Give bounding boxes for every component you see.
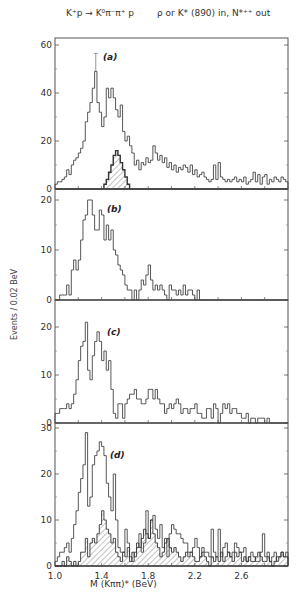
x-tick-label: 1.4 — [94, 571, 109, 581]
y-tick-label: 20 — [41, 136, 53, 146]
panel-a: 0204060(a) — [41, 38, 288, 194]
hatched-histogram — [55, 511, 288, 566]
x-tick-label: 1.8 — [141, 571, 156, 581]
panel-frame — [55, 189, 288, 300]
y-tick-label: 0 — [46, 184, 52, 194]
y-tick-label: 10 — [41, 370, 53, 380]
y-tick-label: 20 — [41, 469, 53, 479]
y-tick-label: 0 — [46, 561, 52, 571]
panel-label: (d) — [110, 450, 125, 460]
y-tick-label: 20 — [41, 195, 53, 205]
y-tick-label: 20 — [41, 322, 53, 332]
histogram — [55, 71, 288, 189]
y-tick-label: 30 — [41, 423, 53, 433]
histogram — [55, 200, 288, 300]
y-tick-label: 60 — [41, 40, 53, 50]
panel-d: 0102030(d) — [41, 423, 288, 571]
histogram — [55, 322, 288, 423]
y-tick-label: 0 — [46, 295, 52, 305]
panel-label: (b) — [107, 204, 122, 214]
x-tick-label: 1.0 — [48, 571, 63, 581]
panel-c: 01020(c) — [41, 300, 288, 428]
y-tick-label: 40 — [41, 88, 53, 98]
panel-label: (a) — [103, 52, 117, 62]
x-tick-label: 2.2 — [188, 571, 202, 581]
histogram-stack: 0204060(a)01020(b)01020(c)0102030(d)1.01… — [0, 0, 302, 612]
y-tick-label: 10 — [41, 515, 53, 525]
x-tick-label: 2.6 — [234, 571, 249, 581]
panel-label: (c) — [107, 327, 121, 337]
y-tick-label: 10 — [41, 245, 53, 255]
panel-b: 01020(b) — [41, 189, 288, 305]
